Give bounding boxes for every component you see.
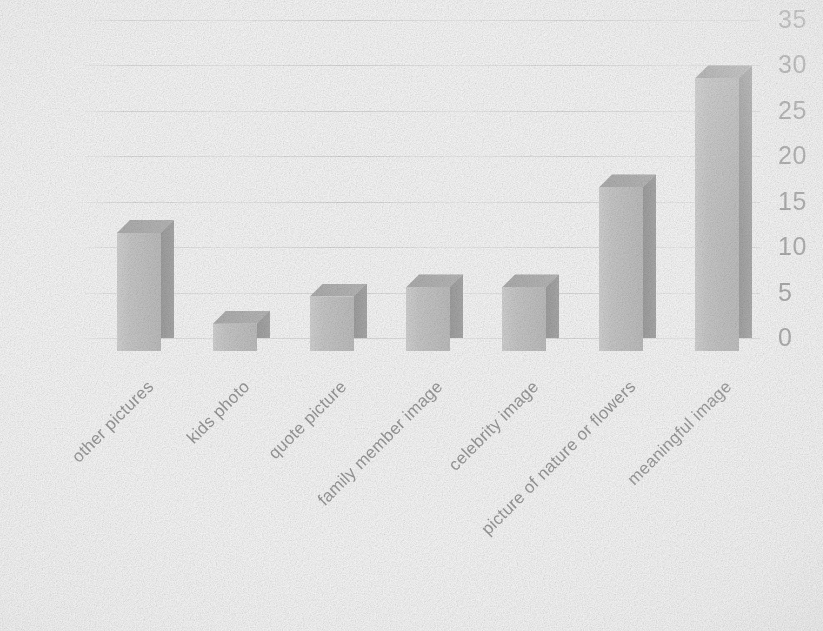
bar	[213, 311, 270, 351]
x-tick-label: quote picture	[264, 377, 350, 463]
gridline-35	[85, 20, 760, 21]
x-tick-label: meaningful image	[623, 377, 735, 489]
bar	[310, 284, 367, 352]
bar	[406, 274, 463, 351]
gridline-15	[85, 202, 760, 203]
y-tick-label: 0	[778, 325, 818, 350]
x-tick-label: picture of nature or flowers	[477, 377, 639, 539]
bar	[599, 174, 656, 351]
bar-front-face	[695, 78, 739, 351]
bar-chart: 35302520151050 other pictureskids photoq…	[0, 0, 823, 631]
gridline-20	[85, 156, 760, 157]
bar-front-face	[213, 324, 257, 351]
bar-front-face	[406, 287, 450, 351]
bar-side-face	[643, 174, 656, 338]
plot-area	[85, 10, 760, 355]
bar-front-face	[310, 297, 354, 352]
gridline-25	[85, 111, 760, 112]
bar-front-face	[117, 233, 161, 351]
bar-side-face	[739, 65, 752, 338]
y-tick-label: 10	[778, 234, 818, 259]
bar	[695, 65, 752, 351]
x-tick-label: celebrity image	[444, 377, 542, 475]
y-tick-label: 20	[778, 143, 818, 168]
y-axis: 35302520151050	[778, 0, 823, 380]
y-tick-label: 25	[778, 98, 818, 123]
bar	[502, 274, 559, 351]
gridline-10	[85, 247, 760, 248]
y-tick-label: 35	[778, 7, 818, 32]
y-tick-label: 15	[778, 189, 818, 214]
gridline-30	[85, 65, 760, 66]
y-tick-label: 30	[778, 52, 818, 77]
bar-front-face	[502, 287, 546, 351]
bar-front-face	[599, 187, 643, 351]
bar-side-face	[161, 220, 174, 338]
x-tick-label: other pictures	[68, 377, 158, 467]
bar	[117, 220, 174, 351]
x-tick-label: kids photo	[183, 377, 254, 448]
x-axis: other pictureskids photoquote picturefam…	[0, 355, 823, 631]
y-tick-label: 5	[778, 280, 818, 305]
